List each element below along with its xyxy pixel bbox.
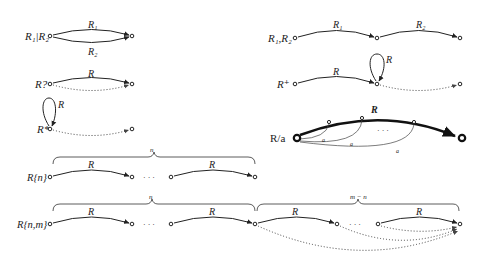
- end-node: [459, 135, 465, 141]
- alternation-label: R₁|R₂: [24, 30, 49, 42]
- end-node: [130, 82, 134, 86]
- edge-r-1: [53, 217, 129, 223]
- intermediate-node: [327, 120, 330, 123]
- concatenation-construct: R₁,R₂ R₁ R₂: [267, 19, 462, 44]
- ellipsis: · · ·: [377, 126, 389, 135]
- loop-label-r: R: [385, 54, 392, 65]
- edge-label-r2: R₂: [87, 46, 98, 57]
- repeat-nm-label: R{n,m}: [16, 219, 48, 230]
- repeat-nm-construct: R{n,m} n m − n R R R R · · · · · ·: [16, 193, 462, 250]
- start-node: [293, 82, 297, 86]
- repeat-n-label: R{n}: [26, 172, 48, 183]
- middle-node: [375, 82, 379, 86]
- ellipsis-1: · · ·: [143, 220, 155, 229]
- optional-construct: R? R: [34, 68, 134, 91]
- alternation-construct: R₁|R₂ R₁ R₂: [24, 19, 134, 57]
- suffix-construct: R/a R a a a · · ·: [270, 104, 465, 154]
- start-node: [293, 36, 297, 40]
- edge-label-r-1: R: [87, 206, 94, 217]
- loop-label-r: R: [57, 99, 64, 110]
- ellipsis-2: · · ·: [349, 220, 361, 229]
- node: [48, 222, 52, 226]
- automaton-diagram: R₁|R₂ R₁ R₂ R? R R* R R₁,R₂ R₁ R₂ R: [0, 0, 483, 277]
- edge-label-r-3: R: [291, 206, 298, 217]
- sub-edge-a-3: [300, 124, 414, 146]
- optional-label: R?: [34, 78, 48, 90]
- end-node: [130, 127, 134, 131]
- plus-label: R⁺: [276, 78, 290, 90]
- plus-construct: R⁺ R R: [276, 54, 462, 91]
- suffix-label: R/a: [270, 132, 285, 144]
- edge-label-r1: R₁: [87, 19, 98, 30]
- concatenation-label: R₁,R₂: [267, 32, 292, 44]
- sub-label-a-3: a: [396, 148, 399, 154]
- brace-label-n: n: [149, 193, 153, 201]
- intermediate-node: [360, 116, 363, 119]
- edge-label-r-1: R: [87, 159, 94, 170]
- edge-r-3: [258, 217, 334, 223]
- star-label: R*: [36, 123, 50, 135]
- node: [48, 175, 52, 179]
- edge-label-r: R: [332, 66, 339, 77]
- epsilon-edge: [53, 85, 129, 91]
- middle-node: [375, 36, 379, 40]
- edge-r: [298, 77, 374, 84]
- edge-label-r: R: [87, 68, 94, 79]
- edge-r2: [53, 37, 129, 43]
- brace-label-m-minus-n: m − n: [350, 193, 367, 201]
- start-node: [48, 82, 52, 86]
- epsilon-edge: [380, 85, 457, 91]
- repeat-n-construct: R{n} n R R · · ·: [26, 146, 257, 183]
- sub-label-a-1: a: [322, 137, 325, 143]
- start-node: [48, 34, 52, 38]
- loop-edge: [370, 54, 384, 81]
- star-construct: R* R: [36, 98, 134, 136]
- start-node: [48, 127, 52, 131]
- node: [253, 222, 257, 226]
- edge-label-r1: R₁: [332, 19, 343, 30]
- brace-n: [53, 199, 255, 211]
- edge-r-4: [381, 217, 457, 223]
- node: [335, 222, 339, 226]
- start-node: [294, 135, 300, 141]
- end-node: [458, 36, 462, 40]
- edge-r-1: [53, 170, 129, 176]
- brace-label-n: n: [150, 146, 154, 154]
- intermediate-node: [412, 120, 415, 123]
- loop-edge: [43, 98, 56, 126]
- edge-r-2: [174, 170, 252, 176]
- node: [130, 222, 134, 226]
- node: [253, 175, 257, 179]
- edge-label-r-2: R: [208, 206, 215, 217]
- edge-label-r2: R₂: [415, 19, 426, 30]
- ellipsis: · · ·: [143, 173, 155, 182]
- edge-label-r: R: [370, 104, 378, 115]
- sub-label-a-2: a: [350, 141, 353, 147]
- brace-n: [53, 152, 255, 164]
- node: [169, 222, 173, 226]
- node: [376, 222, 380, 226]
- end-node: [458, 82, 462, 86]
- edge-r1: [298, 31, 374, 38]
- edge-label-r-2: R: [208, 159, 215, 170]
- end-node: [130, 34, 134, 38]
- node: [169, 175, 173, 179]
- edge-label-r-4: R: [415, 206, 422, 217]
- edge-r2: [380, 31, 457, 38]
- epsilon-edge: [53, 130, 129, 136]
- edge-r-2: [174, 217, 252, 223]
- epsilon-edge-1: [381, 226, 457, 231]
- edge-r1: [53, 30, 129, 36]
- end-node: [458, 222, 462, 226]
- node: [130, 175, 134, 179]
